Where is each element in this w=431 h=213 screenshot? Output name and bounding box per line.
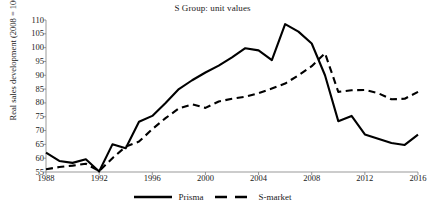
data-series-layer [46,24,418,171]
series-line-s-market [46,53,418,171]
axis-tickmarks [43,20,418,175]
legend-label-prisma: Prisma [178,192,203,202]
legend-entry-s-market: S-market [214,192,292,202]
axis-lines [46,20,418,172]
chart-legend: Prisma S-market [0,192,425,202]
legend-swatch-dashed [214,192,254,202]
legend-entry-prisma: Prisma [133,192,203,202]
legend-label-s-market: S-market [259,192,292,202]
legend-swatch-solid [133,192,173,202]
